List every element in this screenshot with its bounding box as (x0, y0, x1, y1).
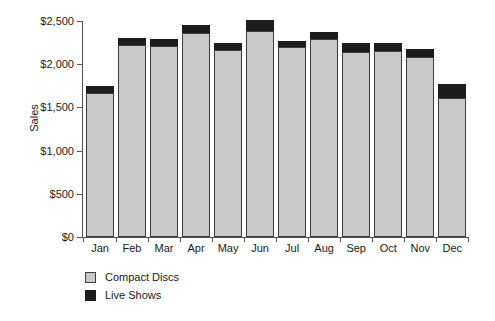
x-axis-tick (244, 237, 245, 242)
x-axis-line (82, 237, 468, 238)
sales-stacked-bar-chart: Sales $0$500$1,000$1,500$2,000$2,500 Jan… (0, 0, 495, 321)
y-axis-tick (77, 21, 82, 22)
legend-swatch-compact-discs (85, 272, 96, 283)
y-axis-tick-label: $2,500 (40, 16, 74, 27)
legend-item-compact-discs: Compact Discs (85, 268, 179, 286)
x-axis-tick (180, 237, 181, 242)
x-axis-tick (276, 237, 277, 242)
bar-segment-compact-discs-nov (406, 57, 434, 237)
y-axis-tick-label: $500 (50, 189, 74, 200)
chart-legend: Compact DiscsLive Shows (85, 268, 179, 304)
bar-segment-live-shows-mar (150, 39, 178, 46)
x-axis-tick (212, 237, 213, 242)
x-axis-tick (148, 237, 149, 242)
y-axis-tick-label: $2,000 (40, 59, 74, 70)
x-axis-tick (308, 237, 309, 242)
bar-segment-live-shows-oct (374, 43, 402, 51)
x-axis-tick (372, 237, 373, 242)
y-axis-tick-label: $0 (62, 232, 74, 243)
legend-label: Compact Discs (105, 272, 179, 283)
bar-segment-live-shows-jan (86, 86, 114, 93)
bar-segment-compact-discs-dec (438, 98, 466, 237)
bar-segment-compact-discs-jun (246, 31, 274, 237)
bar-segment-live-shows-jun (246, 20, 274, 31)
y-axis-tick (77, 237, 82, 238)
y-axis-tick (77, 194, 82, 195)
x-axis-tick (436, 237, 437, 242)
bar-segment-compact-discs-apr (182, 33, 210, 237)
x-axis-tick (116, 237, 117, 242)
bar-segment-compact-discs-mar (150, 46, 178, 237)
legend-item-live-shows: Live Shows (85, 286, 179, 304)
bar-segment-live-shows-aug (310, 32, 338, 39)
bar-segment-compact-discs-may (214, 50, 242, 237)
bar-segment-compact-discs-jan (86, 93, 114, 237)
x-axis-tick (468, 237, 469, 242)
bar-segment-live-shows-sep (342, 43, 370, 52)
plot-area (82, 21, 467, 237)
y-axis-tick (77, 107, 82, 108)
bar-segment-live-shows-feb (118, 38, 146, 45)
y-axis-tick-label: $1,000 (40, 146, 74, 157)
bar-segment-live-shows-apr (182, 25, 210, 33)
bar-segment-live-shows-may (214, 43, 242, 50)
bar-segment-compact-discs-sep (342, 52, 370, 237)
x-axis-tick (404, 237, 405, 242)
y-axis-tick (77, 151, 82, 152)
x-axis-tick-label: Dec (432, 243, 472, 254)
x-axis-tick (83, 237, 84, 242)
y-axis-tick-labels: $0$500$1,000$1,500$2,000$2,500 (0, 21, 74, 237)
x-axis-tick-labels: JanFebMarAprMayJunJulAugSepOctNovDec (82, 243, 468, 259)
x-axis-tick (340, 237, 341, 242)
y-axis-tick (77, 64, 82, 65)
legend-swatch-live-shows (85, 290, 96, 301)
bar-segment-compact-discs-jul (278, 47, 306, 237)
legend-label: Live Shows (105, 290, 161, 301)
bar-segment-live-shows-nov (406, 49, 434, 58)
bar-segment-compact-discs-feb (118, 45, 146, 237)
bar-segment-live-shows-jul (278, 41, 306, 47)
y-axis-line (82, 21, 83, 238)
bar-segment-compact-discs-oct (374, 51, 402, 237)
bar-segment-compact-discs-aug (310, 39, 338, 237)
bar-segment-live-shows-dec (438, 84, 466, 98)
y-axis-tick-label: $1,500 (40, 102, 74, 113)
